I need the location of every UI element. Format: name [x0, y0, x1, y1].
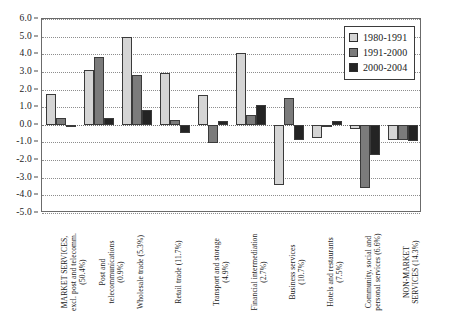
x-axis-tick-label: Transport and storage (4.9%)	[212, 214, 230, 330]
y-axis-tick-label: 0.0	[20, 119, 32, 129]
x-axis-label-slot: Hotels and restaurants (7.5%)	[307, 214, 345, 332]
bar-group	[156, 19, 194, 211]
y-axis-tick-mark	[34, 212, 38, 213]
y-axis-tick-label: -1.0	[16, 136, 32, 146]
bar	[94, 57, 104, 125]
y-axis-tick-label: 4.0	[20, 48, 32, 58]
x-axis-label-slot: Community, social and personal services …	[345, 214, 383, 332]
x-axis-category-labels: MARKET SERVICES, excl. post and telecomm…	[41, 214, 421, 332]
bar	[132, 75, 142, 125]
bar-group	[42, 19, 80, 211]
y-axis-tick-label: 6.0	[20, 13, 32, 23]
x-axis-tick-label: Financial intermediation (2.7%)	[250, 214, 268, 330]
bar	[56, 118, 66, 125]
legend-swatch-icon	[349, 33, 358, 42]
bar	[208, 125, 218, 144]
y-axis-tick-label: -5.0	[16, 207, 32, 217]
bar	[198, 95, 208, 125]
legend-item: 1980-1991	[349, 30, 407, 45]
bar	[256, 105, 266, 125]
y-axis-tick-mark	[34, 70, 38, 71]
bar	[180, 125, 190, 133]
x-axis-tick-label: Hotels and restaurants (7.5%)	[326, 214, 344, 330]
bar	[122, 37, 132, 125]
legend: 1980-19911991-20002000-2004	[344, 26, 415, 80]
bar-group	[118, 19, 156, 211]
x-axis-tick-label: Wholesale trade (5.3%)	[136, 214, 145, 330]
y-axis: 6.05.04.03.02.01.00.0-1.0-2.0-3.0-4.0-5.…	[0, 18, 38, 212]
legend-item-label: 1980-1991	[363, 32, 407, 43]
bar	[370, 125, 380, 155]
y-axis-tick-mark	[34, 159, 38, 160]
y-axis-tick-label: 3.0	[20, 66, 32, 76]
legend-item-label: 1991-2000	[363, 47, 407, 58]
x-axis-label-slot: MARKET SERVICES, excl. post and telecomm…	[41, 214, 79, 332]
bar	[104, 118, 114, 125]
x-axis-tick-label: Business services (10.7%)	[288, 214, 306, 330]
bar	[284, 98, 294, 124]
bar	[218, 121, 228, 125]
bar	[312, 125, 322, 138]
bar	[332, 121, 342, 125]
y-axis-tick-mark	[34, 18, 38, 19]
bar	[46, 94, 56, 125]
y-axis-tick-label: 5.0	[20, 31, 32, 41]
bar	[246, 115, 256, 125]
y-axis-tick-label: -4.0	[16, 189, 32, 199]
y-axis-tick-label: 1.0	[20, 101, 32, 111]
bar	[408, 125, 418, 141]
y-axis-tick-mark	[34, 35, 38, 36]
bar	[84, 70, 94, 125]
x-axis-tick-label: Retail trade (11.7%)	[174, 214, 183, 330]
x-axis-tick-label: Community, social and personal services …	[364, 214, 382, 330]
bar	[170, 120, 180, 125]
y-axis-tick-mark	[34, 141, 38, 142]
y-axis-tick-label: -2.0	[16, 154, 32, 164]
y-axis-tick-mark	[34, 194, 38, 195]
legend-swatch-icon	[349, 48, 358, 57]
bar	[66, 125, 76, 128]
bar	[142, 110, 152, 125]
bar	[274, 125, 284, 185]
bar-group	[232, 19, 270, 211]
bar-group	[308, 19, 346, 211]
y-axis-tick-label: 2.0	[20, 84, 32, 94]
x-axis-label-slot: Wholesale trade (5.3%)	[117, 214, 155, 332]
x-axis-label-slot: Transport and storage (4.9%)	[193, 214, 231, 332]
bar	[398, 125, 408, 140]
bar-chart: 6.05.04.03.02.01.00.0-1.0-2.0-3.0-4.0-5.…	[0, 0, 463, 332]
bar	[360, 125, 370, 188]
x-axis-tick-label: NON-MARKET SERVICES (14.3%)	[402, 214, 420, 330]
y-axis-tick-mark	[34, 53, 38, 54]
bar-group	[194, 19, 232, 211]
y-axis-tick-mark	[34, 106, 38, 107]
x-axis-label-slot: NON-MARKET SERVICES (14.3%)	[383, 214, 421, 332]
bar	[350, 125, 360, 129]
x-axis-label-slot: Retail trade (11.7%)	[155, 214, 193, 332]
legend-item: 1991-2000	[349, 45, 407, 60]
legend-item: 2000-2004	[349, 60, 407, 75]
y-axis-tick-mark	[34, 88, 38, 89]
legend-item-label: 2000-2004	[363, 62, 407, 73]
x-axis-label-slot: Business services (10.7%)	[269, 214, 307, 332]
y-axis-tick-mark	[34, 123, 38, 124]
bar	[388, 125, 398, 140]
x-axis-label-slot: Financial intermediation (2.7%)	[231, 214, 269, 332]
bar-group	[270, 19, 308, 211]
legend-swatch-icon	[349, 63, 358, 72]
x-axis-label-slot: Post and telecommunications (0.9%)	[79, 214, 117, 332]
y-axis-tick-label: -3.0	[16, 172, 32, 182]
bar	[322, 125, 332, 127]
bar	[236, 53, 246, 125]
y-axis-tick-mark	[34, 176, 38, 177]
bar	[294, 125, 304, 140]
bar-group	[80, 19, 118, 211]
bar	[160, 73, 170, 125]
